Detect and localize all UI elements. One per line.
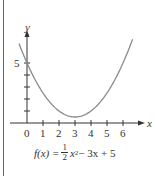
x-tick-label: 2	[56, 127, 62, 139]
formula-lhs: f(x) =	[34, 147, 59, 159]
x-tick-label: 4	[88, 127, 94, 139]
y-axis-label: y	[24, 21, 30, 33]
x-tick-labels: 0123456	[24, 127, 126, 139]
x-tick-label: 6	[120, 127, 126, 139]
parabola-curve	[19, 39, 133, 117]
x-tick-label: 5	[104, 127, 110, 139]
formula-rest: − 3x + 5	[78, 147, 115, 159]
x-tick-label: 1	[40, 127, 46, 139]
x-axis-arrow-icon	[138, 121, 145, 126]
x-tick-label: 3	[72, 127, 78, 139]
formula-fraction: 1 2	[61, 143, 68, 162]
function-formula: f(x) = 1 2 x2 − 3x + 5	[34, 143, 116, 162]
x-axis-label: x	[146, 117, 152, 129]
y-tick-label-5: 5	[14, 57, 20, 69]
fraction-denominator: 2	[62, 153, 67, 162]
x-tick-label: 0	[24, 127, 30, 139]
